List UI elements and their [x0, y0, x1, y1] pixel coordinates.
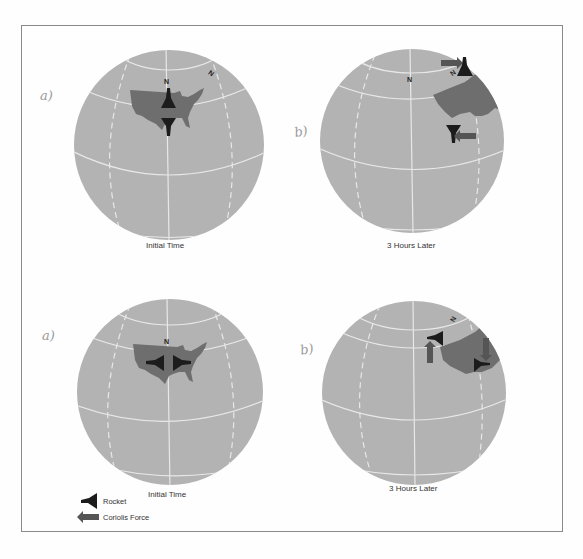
panel-bottom-right: b) N [299, 240, 506, 493]
panel-top-right: b) N N [293, 0, 510, 250]
coriolis-arrow-icon [77, 511, 99, 523]
caption: Initial Time [146, 241, 185, 250]
handwritten-label: b) [293, 123, 309, 140]
north-label: N [164, 338, 169, 345]
legend-item-rocket: Rocket [81, 493, 127, 509]
coriolis-figure: a) N N [0, 0, 583, 559]
legend-coriolis-label: Coriolis Force [103, 513, 149, 522]
legend-rocket-label: Rocket [103, 497, 127, 506]
handwritten-label: a) [42, 328, 55, 343]
panel-bottom-left: a) N Initial Time [42, 245, 265, 499]
globe: N N [60, 0, 280, 240]
caption: Initial Time [148, 490, 187, 499]
globe: N N [318, 0, 510, 234]
legend: Rocket Coriolis Force [77, 493, 149, 523]
globe: N [75, 245, 265, 490]
north-label: N [407, 76, 412, 83]
rocket-icon [81, 493, 97, 509]
north-label: N [164, 78, 169, 85]
globe: N [322, 240, 506, 486]
legend-item-coriolis: Coriolis Force [77, 511, 149, 523]
caption: 3 Hours Later [387, 241, 436, 250]
handwritten-label: a) [40, 88, 53, 103]
caption: 3 Hours Later [389, 484, 438, 493]
panel-top-left: a) N N [40, 0, 280, 250]
handwritten-label: b) [299, 341, 315, 358]
